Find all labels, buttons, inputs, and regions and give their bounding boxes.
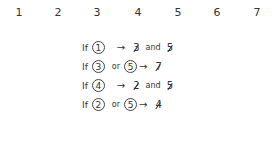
number-2: 2 <box>55 6 62 19</box>
number-7: 7 <box>254 6 261 19</box>
circled-number: 4 <box>92 79 105 92</box>
crossed-number: 3 <box>133 42 139 53</box>
if-label: If <box>82 62 88 72</box>
crossed-number: 2 <box>133 80 139 91</box>
rule-1: If 1 → 3 and 5 <box>82 38 176 57</box>
arrow-icon: → <box>117 42 125 53</box>
number-row: 1 2 3 4 5 6 7 <box>0 6 275 22</box>
rule-list: If 1 → 3 and 5 If 3 or 5 → 7 If 4 → 2 an… <box>82 38 176 114</box>
number-5: 5 <box>175 6 182 19</box>
arrow-icon: → <box>117 80 125 91</box>
or-label: or <box>112 100 120 109</box>
circled-number: 3 <box>92 60 105 73</box>
circled-number: 2 <box>92 98 105 111</box>
crossed-number: 5 <box>167 42 173 53</box>
if-label: If <box>82 100 88 110</box>
rule-2: If 3 or 5 → 7 <box>82 57 176 76</box>
number-1: 1 <box>16 6 23 19</box>
and-label: and <box>146 43 161 52</box>
or-label: or <box>112 62 120 71</box>
if-label: If <box>82 43 88 53</box>
number-4: 4 <box>135 6 142 19</box>
rule-3: If 4 → 2 and 5 <box>82 76 176 95</box>
arrow-icon: → <box>139 99 147 110</box>
number-3: 3 <box>94 6 101 19</box>
number-6: 6 <box>214 6 221 19</box>
circled-number: 5 <box>124 98 137 111</box>
crossed-number: 7 <box>155 61 161 72</box>
crossed-number: 4 <box>155 99 161 110</box>
if-label: If <box>82 81 88 91</box>
rule-4: If 2 or 5 → 4 <box>82 95 176 114</box>
and-label: and <box>146 81 161 90</box>
arrow-icon: → <box>139 61 147 72</box>
circled-number: 1 <box>92 41 105 54</box>
circled-number: 5 <box>124 60 137 73</box>
crossed-number: 5 <box>167 80 173 91</box>
